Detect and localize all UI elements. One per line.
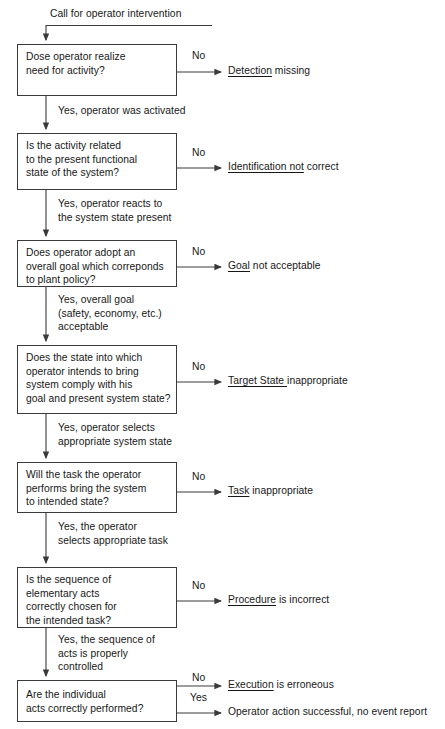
decision-line: need for activity?: [26, 64, 176, 78]
decision-line: to the present functional: [26, 153, 176, 167]
outcome-identification: Identification not correct: [228, 161, 339, 172]
decision-line: to plant policy?: [26, 273, 176, 287]
decision-line: Does operator adopt an: [26, 246, 176, 260]
decision-line: overall goal which correponds: [26, 260, 176, 274]
decision-line: Is the sequence of: [26, 573, 176, 587]
outcome-procedure: Procedure is incorrect: [228, 594, 329, 605]
branch-label-yes-identification: Yes, operator reacts to the system state…: [58, 197, 171, 224]
decision-box-procedure[interactable]: Is the sequence of elementary acts corre…: [17, 567, 177, 628]
outcome-target-state: Target State inappropriate: [228, 375, 348, 386]
branch-label-line: Yes, operator selects: [58, 421, 172, 435]
branch-label-no: No: [192, 147, 205, 158]
branch-label-no: No: [192, 246, 205, 257]
branch-label-no: No: [192, 471, 205, 482]
branch-label-yes-detection: Yes, operator was activated: [58, 104, 185, 118]
outcome-detection: Detection missing: [228, 65, 310, 76]
flowchart-canvas: Call for operator intervention Dose oper…: [0, 0, 445, 729]
branch-label-no: No: [192, 361, 205, 372]
branch-label-line: selects appropriate task: [58, 534, 168, 548]
decision-line: Does the state into which: [26, 351, 176, 365]
branch-label-line: Yes, the operator: [58, 520, 168, 534]
outcome-emphasis: Task: [228, 485, 249, 496]
outcome-rest: inappropriate: [287, 375, 348, 386]
branch-label-yes-procedure: Yes, the sequence of acts is properly co…: [58, 633, 155, 674]
decision-line: Dose operator realize: [26, 50, 176, 64]
decision-box-task[interactable]: Will the task the operator performs brin…: [17, 462, 177, 513]
decision-line: to intended state?: [26, 495, 176, 509]
outcome-emphasis: Procedure: [228, 594, 276, 605]
outcome-rest: not acceptable: [250, 260, 321, 271]
outcome-rest: is erroneous: [274, 679, 334, 690]
outcome-emphasis: Target State: [228, 375, 287, 386]
outcome-rest: missing: [272, 65, 310, 76]
decision-line: Will the task the operator: [26, 468, 176, 482]
decision-box-target-state[interactable]: Does the state into which operator inten…: [17, 345, 177, 414]
branch-label-line: (safety, economy, etc.): [58, 307, 162, 321]
outcome-rest: correct: [304, 161, 339, 172]
branch-label-line: Yes, overall goal: [58, 293, 162, 307]
branch-label-no: No: [192, 580, 205, 591]
decision-line: correctly chosen for: [26, 600, 176, 614]
branch-label-line: acts is properly: [58, 647, 155, 661]
decision-line: acts correctly performed?: [26, 702, 176, 716]
decision-box-goal[interactable]: Does operator adopt an overall goal whic…: [17, 240, 177, 287]
branch-label-line: the system state present: [58, 211, 171, 225]
outcome-success: Operator action successful, no event rep…: [228, 706, 427, 717]
branch-label-line: Yes, operator was activated: [58, 104, 185, 118]
decision-line: operator intends to bring: [26, 365, 176, 379]
branch-label-yes-target-state: Yes, operator selects appropriate system…: [58, 421, 172, 448]
decision-box-detection[interactable]: Dose operator realize need for activity?: [17, 44, 177, 96]
decision-line: Is the activity related: [26, 139, 176, 153]
decision-box-execution[interactable]: Are the individual acts correctly perfor…: [17, 680, 177, 722]
branch-label-line: controlled: [58, 660, 155, 674]
outcome-goal: Goal not acceptable: [228, 260, 321, 271]
outcome-emphasis: Goal: [228, 260, 250, 271]
branch-label-yes: Yes: [190, 692, 207, 703]
branch-label-line: Yes, the sequence of: [58, 633, 155, 647]
outcome-execution: Execution is erroneous: [228, 679, 334, 690]
decision-box-identification[interactable]: Is the activity related to the present f…: [17, 133, 177, 190]
branch-label-line: Yes, operator reacts to: [58, 197, 171, 211]
branch-label-line: appropriate system state: [58, 435, 172, 449]
outcome-rest: Operator action successful, no event rep…: [228, 706, 427, 717]
branch-label-yes-goal: Yes, overall goal (safety, economy, etc.…: [58, 293, 162, 334]
outcome-emphasis: Identification not: [228, 161, 304, 172]
outcome-emphasis: Detection: [228, 65, 272, 76]
decision-line: elementary acts: [26, 587, 176, 601]
branch-label-line: acceptable: [58, 320, 162, 334]
branch-label-yes-task: Yes, the operator selects appropriate ta…: [58, 520, 168, 547]
outcome-rest: inappropriate: [249, 485, 313, 496]
outcome-rest: is incorrect: [276, 594, 329, 605]
decision-line: performs bring the system: [26, 482, 176, 496]
decision-line: Are the individual: [26, 688, 176, 702]
branch-label-no: No: [192, 672, 205, 683]
outcome-task: Task inappropriate: [228, 485, 313, 496]
branch-label-no: No: [192, 50, 205, 61]
decision-line: system comply with his: [26, 378, 176, 392]
decision-line: state of the system?: [26, 166, 176, 180]
decision-line: goal and present system state?: [26, 392, 176, 406]
outcome-emphasis: Execution: [228, 679, 274, 690]
decision-line: the intended task?: [26, 614, 176, 628]
entry-label: Call for operator intervention: [50, 8, 181, 19]
